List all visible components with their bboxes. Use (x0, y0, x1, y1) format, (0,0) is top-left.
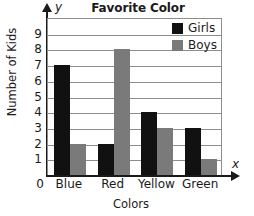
y-axis-origin-label: 0 (30, 178, 44, 191)
x-axis-tick-label-yellow: Yellow (135, 178, 179, 191)
x-axis-variable-label: x (232, 158, 239, 170)
legend-label-girls: Girls (188, 22, 215, 35)
x-axis-title: Colors (46, 198, 216, 210)
y-axis-tick-label: 9 (28, 28, 42, 40)
chart-title: Favorite Color (78, 1, 198, 15)
bar-red-boys (114, 49, 130, 175)
favorite-color-bar-chart: Favorite Color Number of Kids Colors y x… (0, 0, 254, 216)
y-axis-tick-label: 5 (28, 91, 42, 103)
legend-swatch-girls-icon (172, 23, 183, 34)
y-axis-tick-label: 6 (28, 75, 42, 87)
legend-label-boys: Boys (188, 39, 217, 52)
y-axis-arrow-icon (42, 3, 52, 12)
bar-blue-girls (54, 65, 70, 175)
x-axis-tick-label-blue: Blue (47, 178, 91, 191)
y-axis-tick-label: 4 (28, 106, 42, 118)
y-axis-title: Number of Kids (6, 12, 18, 132)
bar-blue-boys (70, 144, 86, 175)
y-axis-variable-label: y (55, 1, 62, 13)
bar-yellow-girls (141, 112, 157, 175)
legend-item-girls: Girls (172, 20, 246, 37)
y-axis-tick-label: 8 (28, 43, 42, 55)
legend-swatch-boys-icon (172, 40, 183, 51)
x-axis-tick-label-green: Green (178, 178, 222, 191)
y-axis-tick-label: 1 (28, 153, 42, 165)
x-axis-tick-label-red: Red (91, 178, 135, 191)
bar-green-girls (185, 128, 201, 175)
bar-red-girls (98, 144, 114, 175)
y-axis-tick-label: 3 (28, 122, 42, 134)
bar-yellow-boys (157, 128, 173, 175)
bar-green-boys (201, 159, 217, 175)
legend-item-boys: Boys (172, 37, 246, 54)
y-axis-tick-label: 2 (28, 138, 42, 150)
chart-legend: Girls Boys (172, 20, 246, 54)
y-axis-tick-label: 7 (28, 59, 42, 71)
x-axis-arrow-icon (231, 171, 240, 181)
